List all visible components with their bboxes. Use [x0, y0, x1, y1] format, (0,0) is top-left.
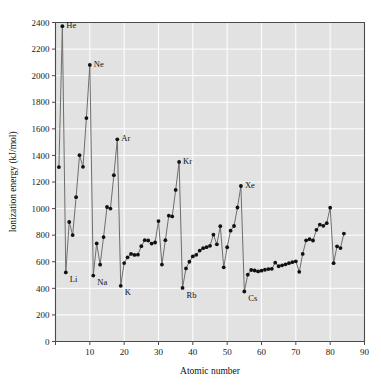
data-point: [294, 259, 298, 263]
data-point: [342, 232, 346, 236]
y-tick-label: 1800: [32, 97, 51, 107]
data-point: [191, 255, 195, 259]
point-label: Rb: [187, 290, 197, 300]
data-point: [170, 215, 174, 219]
data-point: [57, 165, 61, 169]
data-point: [339, 246, 343, 250]
data-point: [273, 261, 277, 265]
y-tick-label: 600: [36, 257, 50, 267]
data-point: [229, 229, 233, 233]
data-point: [332, 261, 336, 265]
data-point: [225, 245, 229, 249]
data-point: [167, 214, 171, 218]
y-tick-label: 0: [45, 337, 50, 347]
data-point: [246, 273, 250, 277]
point-label: Xe: [245, 180, 255, 190]
data-point: [249, 268, 253, 272]
point-label: K: [125, 287, 132, 297]
y-tick-label: 400: [36, 284, 50, 294]
x-tick-label: 10: [85, 347, 95, 357]
data-point: [71, 233, 75, 237]
ionization-energy-chart: 0200400600800100012001400160018002000220…: [0, 0, 381, 391]
data-point: [177, 160, 181, 164]
data-point: [198, 249, 202, 253]
data-point: [102, 235, 106, 239]
data-point: [291, 260, 295, 264]
data-point: [280, 263, 284, 267]
data-point: [139, 244, 143, 248]
data-point: [318, 223, 322, 227]
data-point: [74, 195, 78, 199]
data-point: [253, 269, 257, 273]
data-point: [277, 264, 281, 268]
data-point: [81, 165, 85, 169]
point-label: Li: [70, 274, 78, 284]
point-label: He: [66, 20, 76, 30]
data-point: [304, 238, 308, 242]
data-point: [208, 244, 212, 248]
data-point: [194, 253, 198, 257]
y-tick-label: 2000: [32, 71, 51, 81]
data-point: [143, 238, 147, 242]
y-tick-label: 1400: [32, 151, 51, 161]
data-point: [105, 205, 109, 209]
data-point: [328, 206, 332, 210]
y-tick-label: 2200: [32, 44, 51, 54]
data-point: [212, 233, 216, 237]
data-point: [109, 207, 113, 211]
data-point: [184, 267, 188, 271]
y-tick-label: 200: [36, 310, 50, 320]
data-point: [146, 239, 150, 243]
y-tick-label: 1000: [32, 204, 51, 214]
point-label: Kr: [183, 156, 192, 166]
data-point: [122, 261, 126, 265]
y-tick-label: 1600: [32, 124, 51, 134]
data-point: [157, 219, 161, 223]
x-tick-label: 70: [291, 347, 301, 357]
data-point: [129, 252, 133, 256]
data-point: [266, 267, 270, 271]
data-point: [287, 261, 291, 265]
x-tick-label: 80: [326, 347, 336, 357]
data-point: [150, 242, 154, 246]
data-point: [218, 224, 222, 228]
data-point: [88, 63, 92, 67]
data-point: [153, 241, 157, 245]
data-point: [284, 262, 288, 266]
point-label: Na: [97, 277, 107, 287]
data-point: [188, 260, 192, 264]
data-point: [222, 265, 226, 269]
data-point: [85, 116, 89, 120]
x-tick-label: 50: [223, 347, 233, 357]
data-point: [160, 263, 164, 267]
data-point: [115, 137, 119, 141]
data-point: [215, 242, 219, 246]
data-point: [136, 253, 140, 257]
data-point: [239, 184, 243, 188]
x-tick-label: 20: [120, 347, 130, 357]
chart-page: 0200400600800100012001400160018002000220…: [0, 0, 381, 391]
data-point: [335, 244, 339, 248]
data-point: [174, 188, 178, 192]
data-point: [181, 286, 185, 290]
data-point: [67, 220, 71, 224]
point-label: Cs: [248, 293, 257, 303]
data-point: [78, 153, 82, 157]
data-point: [263, 268, 267, 272]
data-point: [205, 245, 209, 249]
y-axis-title: Ionization energy (kJ/mol): [8, 131, 19, 232]
x-axis-title: Atomic number: [180, 366, 241, 376]
data-point: [95, 242, 99, 246]
data-point: [311, 239, 315, 243]
data-point: [112, 173, 116, 177]
data-point: [242, 290, 246, 294]
data-point: [126, 255, 130, 259]
data-point: [60, 24, 64, 28]
y-tick-label: 800: [36, 230, 50, 240]
data-point: [64, 270, 68, 274]
data-point: [163, 238, 167, 242]
data-point: [308, 237, 312, 241]
data-point: [256, 270, 260, 274]
data-point: [321, 224, 325, 228]
point-label: Ne: [94, 59, 104, 69]
